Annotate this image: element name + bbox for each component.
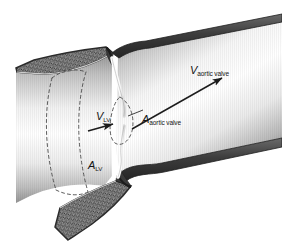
anatomy-illustration bbox=[0, 0, 282, 248]
myocardium-lower bbox=[55, 181, 131, 240]
myocardium-lower-fill bbox=[55, 181, 131, 240]
figure-container: Vaortic valve Aaortic valve VLV ALV bbox=[0, 0, 282, 248]
a-lv-arc-bottom bbox=[56, 190, 88, 195]
